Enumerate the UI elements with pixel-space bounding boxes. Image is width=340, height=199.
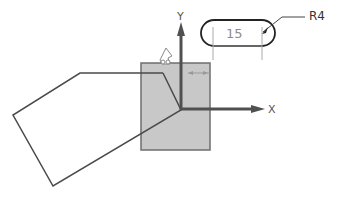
- gray-square-sketch[interactable]: [141, 63, 210, 150]
- radius-arrow-icon: [262, 27, 268, 34]
- radius-dimension-label[interactable]: R4: [309, 10, 325, 22]
- x-axis-label: X: [268, 104, 276, 115]
- sketch-canvas[interactable]: [0, 0, 340, 199]
- length-dimension-value[interactable]: 15: [226, 27, 243, 40]
- hand-cursor-icon: [160, 48, 172, 64]
- y-axis-label: Y: [177, 11, 184, 22]
- y-axis-arrow-icon: [177, 22, 185, 36]
- x-axis-arrow-icon: [251, 105, 265, 113]
